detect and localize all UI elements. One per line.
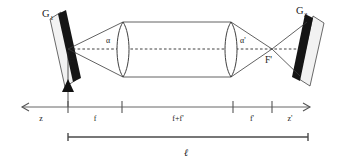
axis-label-zprime: z' xyxy=(288,114,294,123)
optical-diagram: G 1 G 2 xyxy=(0,0,339,164)
axis-label-fprime: f' xyxy=(250,114,255,123)
grating-g1 xyxy=(50,10,81,87)
grating-g2 xyxy=(292,14,324,86)
lens-2 xyxy=(225,22,237,77)
focus-f-label: F xyxy=(69,57,74,67)
total-length-label: ℓ xyxy=(184,147,188,158)
total-length-bar xyxy=(68,133,308,141)
lens-1 xyxy=(117,22,129,77)
distance-axis xyxy=(22,101,310,113)
axis-label-f-plus-fprime: f+f' xyxy=(172,114,184,123)
grating-g2-subscript: 2 xyxy=(304,11,308,19)
axis-label-z: z xyxy=(39,114,43,123)
diagram-canvas: G 1 G 2 xyxy=(0,0,339,164)
grating-g1-label: G xyxy=(42,8,50,19)
collimated-beam xyxy=(123,22,231,77)
grating-g2-label: G xyxy=(296,5,304,16)
angle-alpha-prime-label: α' xyxy=(240,36,246,45)
ray-left-upper xyxy=(68,22,123,49)
grating-g1-subscript: 1 xyxy=(50,14,54,22)
axis-label-f: f xyxy=(94,114,97,123)
angle-alpha-label: α xyxy=(106,36,111,45)
focus-fprime-label: F' xyxy=(265,55,272,65)
